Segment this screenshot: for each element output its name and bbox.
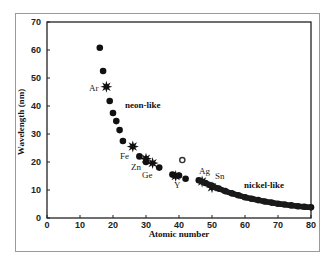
data-point-diamond <box>97 44 104 51</box>
data-point-diamond <box>156 164 163 171</box>
data-point-diamond <box>120 138 127 145</box>
data-point-diamond <box>116 127 123 134</box>
data-point-diamond <box>100 68 107 75</box>
data-point-star <box>100 81 112 93</box>
annotation-fe: Fe <box>120 151 129 161</box>
data-point-star <box>147 157 159 169</box>
scatter-chart: 01020304050607080010203040506070 Atomic … <box>0 0 335 264</box>
y-axis-title: Wavelength (nm) <box>16 89 26 155</box>
y-tick-label: 30 <box>31 129 41 139</box>
annotation-ge: Ge <box>142 170 153 180</box>
x-tick-label: 80 <box>306 220 316 230</box>
x-tick-label: 10 <box>75 220 85 230</box>
data-point-open-circle <box>180 157 185 162</box>
y-tick-label: 60 <box>31 45 41 55</box>
y-tick-label: 40 <box>31 101 41 111</box>
x-tick-label: 70 <box>273 220 283 230</box>
x-tick-label: 20 <box>108 220 118 230</box>
y-tick-label: 70 <box>31 17 41 27</box>
data-point-diamond <box>106 98 113 105</box>
data-point-diamond <box>113 118 120 125</box>
annotation-neon-like: neon-like <box>125 100 161 110</box>
annotation-ar: Ar <box>89 83 99 93</box>
y-tick-label: 50 <box>31 73 41 83</box>
y-tick-label: 10 <box>31 185 41 195</box>
annotation-sn: Sn <box>215 171 225 181</box>
data-point-band <box>307 204 313 210</box>
data-point-diamond <box>182 176 189 183</box>
y-tick-label: 20 <box>31 157 41 167</box>
x-tick-label: 60 <box>240 220 250 230</box>
annotation-ag: Ag <box>199 166 210 176</box>
axis-ticks: 01020304050607080010203040506070 <box>31 17 316 230</box>
annotation-zn: Zn <box>131 162 141 172</box>
x-axis-title: Atomic number <box>149 229 210 239</box>
y-tick-label: 0 <box>36 213 41 223</box>
x-tick-label: 0 <box>44 220 49 230</box>
annotation-y: Y <box>174 180 181 190</box>
data-point-diamond <box>110 110 117 117</box>
annotation-nickel-like: nickel-like <box>244 180 284 190</box>
